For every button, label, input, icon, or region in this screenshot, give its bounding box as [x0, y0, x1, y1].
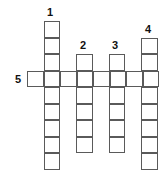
clue-number-2: 2	[80, 40, 86, 51]
crossword-cell-3-4[interactable]	[109, 104, 126, 121]
crossword-cell-5-1[interactable]	[27, 71, 44, 88]
crossword-cell-2-4[interactable]	[76, 104, 93, 121]
crossword-cell-5-6[interactable]	[110, 71, 127, 88]
clue-number-4: 4	[145, 24, 151, 35]
crossword-cell-5-7[interactable]	[126, 71, 143, 88]
crossword-cell-1-6[interactable]	[44, 104, 61, 121]
crossword-cell-5-4[interactable]	[77, 71, 94, 88]
clue-number-5: 5	[15, 74, 21, 85]
crossword-cell-5-8[interactable]	[143, 71, 160, 88]
crossword-cell-1-3[interactable]	[44, 54, 61, 71]
clue-number-3: 3	[112, 40, 118, 51]
crossword-cell-3-5[interactable]	[109, 120, 126, 137]
crossword-cell-1-7[interactable]	[44, 120, 61, 137]
crossword-cell-1-2[interactable]	[44, 38, 61, 55]
crossword-cell-4-1[interactable]	[141, 38, 158, 55]
crossword-cell-4-4[interactable]	[141, 87, 158, 104]
crossword-cell-1-4[interactable]	[44, 71, 61, 88]
crossword-cell-4-6[interactable]	[141, 120, 158, 137]
crossword-cell-2-3[interactable]	[76, 87, 93, 104]
crossword-cell-1-5[interactable]	[44, 87, 61, 104]
clue-number-1: 1	[47, 7, 53, 18]
crossword-cell-2-5[interactable]	[76, 120, 93, 137]
crossword-cell-2-6[interactable]	[76, 137, 93, 154]
crossword-cell-4-7[interactable]	[141, 137, 158, 154]
crossword-cell-5-5[interactable]	[93, 71, 110, 88]
crossword-cell-2-1[interactable]	[76, 54, 93, 71]
crossword-cell-1-1[interactable]	[44, 21, 61, 38]
crossword-cell-4-5[interactable]	[141, 104, 158, 121]
crossword-cell-1-8[interactable]	[44, 137, 61, 154]
crossword-cell-1-9[interactable]	[44, 153, 61, 170]
crossword-cell-3-1[interactable]	[109, 54, 126, 71]
crossword-cell-5-3[interactable]	[60, 71, 77, 88]
crossword-cell-4-8[interactable]	[141, 153, 158, 170]
crossword-cell-4-2[interactable]	[141, 54, 158, 71]
crossword-cell-3-6[interactable]	[109, 137, 126, 154]
crossword-cell-3-3[interactable]	[109, 87, 126, 104]
